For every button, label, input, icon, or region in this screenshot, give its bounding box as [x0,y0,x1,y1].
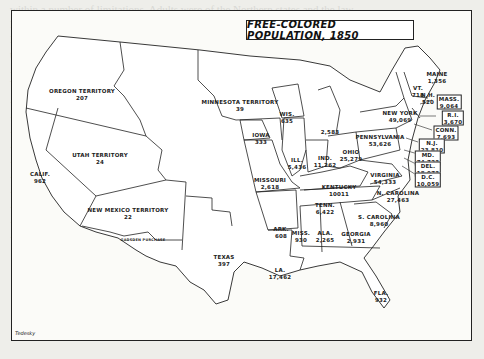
region-massachusetts: MASS.9,064 [437,95,462,110]
region-virginia: VIRGINIA54,333 [370,172,400,185]
region-louisiana: LA.17,462 [269,267,291,280]
region-alabama: ALA.2,265 [316,230,334,243]
region-tennessee: TENN.6,422 [315,202,335,215]
map-title: FREE-COLORED POPULATION, 1850 [246,20,414,40]
region-wisconsin: WIS.635 [280,111,295,124]
region-north-carolina: N. CAROLINA27,463 [377,190,419,203]
region-mississippi: MISS.930 [292,230,310,243]
region-oregon-territory: OREGON TERRITORY207 [49,88,115,101]
region-dc: D.C.10,059 [415,173,441,188]
region-georgia: GEORGIA2,931 [341,231,370,244]
region-maine: MAINE1,356 [426,71,447,84]
region-minnesota-territory: MINNESOTA TERRITORY39 [202,99,279,112]
us-map-outline [11,10,472,341]
region-new-york: NEW YORK49,069 [383,110,418,123]
region-arkansas: ARK.608 [273,226,289,239]
region-texas: TEXAS397 [214,254,235,267]
region-pennsylvania: PENNSYLVANIA53,626 [355,134,404,147]
region-new-hampshire: N.H.520 [421,92,435,105]
region-new-mexico-territory: NEW MEXICO TERRITORY22 [88,207,169,220]
region-missouri: MISSOURI2,618 [254,177,286,190]
region-iowa: IOWA333 [252,132,270,145]
region-kentucky: KENTUCKY10011 [322,184,357,197]
region-south-carolina: S. CAROLINA8,960 [358,214,400,227]
region-california: CALIF.962 [30,171,50,184]
region-rhode-island: R.I.3,670 [442,111,464,126]
region-ohio: OHIO25,279 [340,149,362,162]
map-credit: Tedesky [15,330,35,336]
region-gadsden-purchase: GADSDEN PURCHASE [121,237,166,244]
region-illinois: ILL.5,436 [288,157,306,170]
region-florida: FLA.932 [374,290,389,303]
region-utah-territory: UTAH TERRITORY24 [72,152,128,165]
region-indiana: IND.11,262 [314,155,336,168]
region-michigan: 2,583 [321,129,339,136]
